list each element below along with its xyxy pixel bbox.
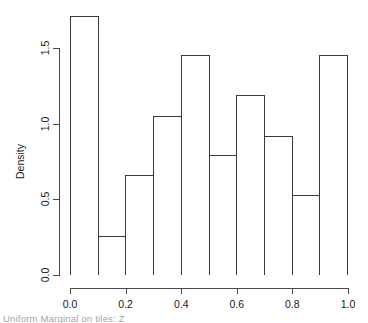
x-axis-tick [70, 288, 71, 294]
x-axis-tick-label: 0.2 [106, 298, 146, 310]
histogram-bar [70, 16, 99, 275]
histogram-bar [236, 95, 265, 275]
y-axis-line [59, 48, 60, 276]
histogram-bar [292, 195, 321, 275]
y-axis-title: Density [14, 144, 26, 179]
histogram-bar [209, 155, 238, 275]
x-axis-tick-label: 0.0 [50, 298, 90, 310]
histogram-bar [98, 236, 127, 275]
x-axis-tick-label: 0.6 [217, 298, 257, 310]
x-axis-tick [181, 288, 182, 294]
y-axis-tick-label: 0.5 [39, 192, 51, 207]
x-axis-tick [348, 288, 349, 294]
y-axis-tick-label: 1.0 [39, 116, 51, 131]
y-axis-tick [53, 48, 59, 49]
x-axis-tick [126, 288, 127, 294]
x-axis-tick-label: 1.0 [328, 298, 368, 310]
x-axis-tick-label: 0.8 [272, 298, 312, 310]
histogram-bar [319, 55, 348, 275]
y-axis-tick [53, 124, 59, 125]
y-axis-tick [53, 199, 59, 200]
x-axis-tick [292, 288, 293, 294]
y-axis-tick-label: 1.5 [39, 40, 51, 55]
x-axis-line [70, 288, 348, 289]
histogram-bar [125, 175, 154, 275]
histogram-bar [181, 55, 210, 275]
plot-area [70, 8, 348, 275]
histogram-figure: 0.00.51.01.5 Density 0.00.20.40.60.81.0 … [0, 0, 368, 323]
figure-caption: Uniform Marginal on tiles: Z [3, 313, 125, 323]
y-axis-tick [53, 275, 59, 276]
x-axis-tick-label: 0.4 [161, 298, 201, 310]
y-axis-tick-label: 0.0 [39, 268, 51, 283]
histogram-bar [264, 136, 293, 275]
histogram-bar [153, 116, 182, 275]
x-axis-tick [237, 288, 238, 294]
histogram-bars [70, 8, 348, 275]
